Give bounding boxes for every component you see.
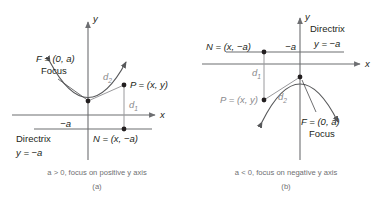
focus-point-dot (298, 75, 303, 80)
focus-word-label: Focus (309, 128, 335, 139)
directrix-word-label: Directrix (310, 23, 345, 34)
focus-point-label: F = (0, a) (301, 116, 340, 127)
panel-b-letter: (b) (281, 182, 291, 191)
focus-point-dot (86, 99, 91, 104)
point-p-dot (262, 98, 267, 103)
panel-a-caption: a > 0, focus on positive y axis (47, 168, 147, 177)
panel-b: y x −a N = (x, −a) Directrix y = −a P = … (194, 0, 388, 202)
y-axis-label: y (92, 13, 99, 24)
x-axis-label: x (159, 109, 166, 120)
point-p-dot (122, 83, 127, 88)
distance-d1-label: d1 (129, 99, 138, 112)
point-n-label: N = (x, −a) (206, 41, 251, 52)
panel-b-caption: a < 0, focus on negative y axis (235, 168, 338, 177)
point-p-label: P = (x, y) (220, 94, 258, 105)
panel-a-letter: (a) (92, 182, 102, 191)
tick-label-minus-a: −a (285, 41, 296, 52)
point-n-dot (262, 50, 267, 55)
distance-d2-segment (88, 85, 124, 101)
focus-leader-line (302, 80, 316, 112)
parabola-figure: y x −a F = (0, a) Focus P = (x, y) N = (… (0, 0, 388, 202)
panel-a-diagram: y x −a F = (0, a) Focus P = (x, y) N = (… (0, 0, 194, 202)
point-n-dot (122, 127, 127, 132)
distance-d2-label: d2 (103, 71, 112, 84)
tick-label-minus-a: −a (60, 118, 71, 129)
focus-point-label: F = (0, a) (36, 53, 75, 64)
panel-b-diagram: y x −a N = (x, −a) Directrix y = −a P = … (194, 0, 388, 202)
point-n-label: N = (x, −a) (93, 133, 138, 144)
distance-d1-label: d1 (252, 67, 261, 80)
distance-d2-label: d2 (278, 91, 287, 104)
directrix-equation-label: y = −a (15, 147, 42, 158)
directrix-equation-label: y = −a (313, 38, 340, 49)
directrix-word-label: Directrix (16, 133, 51, 144)
y-axis-label: y (304, 11, 311, 22)
focus-word-label: Focus (41, 65, 67, 76)
point-p-label: P = (x, y) (130, 79, 168, 90)
x-axis-label: x (364, 58, 371, 69)
focus-leader-line (58, 79, 86, 99)
panel-a: y x −a F = (0, a) Focus P = (x, y) N = (… (0, 0, 194, 202)
